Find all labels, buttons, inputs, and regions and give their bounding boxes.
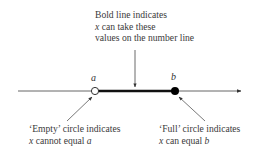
full-circle-b xyxy=(171,87,179,95)
full-annotation-line2: x can equal b xyxy=(159,135,240,147)
empty-annotation-mid: cannot equal xyxy=(33,135,87,146)
top-annotation-line2: x can take these xyxy=(95,21,194,33)
empty-annotation-line2: x cannot equal a xyxy=(29,135,120,147)
full-annotation-line1: ‘Full’ circle indicates xyxy=(159,123,240,135)
variable-b: b xyxy=(205,135,210,146)
top-annotation-line3: values on the number line xyxy=(95,32,194,44)
point-label-b: b xyxy=(171,71,176,82)
top-annotation: Bold line indicates x can take these val… xyxy=(95,9,194,44)
full-circle-annotation: ‘Full’ circle indicates x can equal b xyxy=(159,123,240,146)
empty-circle-arrow xyxy=(67,97,92,121)
empty-annotation-line1: ‘Empty’ circle indicates xyxy=(29,123,120,135)
empty-circle-a xyxy=(91,87,98,94)
empty-circle-annotation: ‘Empty’ circle indicates x cannot equal … xyxy=(29,123,120,146)
full-annotation-mid: can equal xyxy=(163,135,204,146)
top-annotation-line1: Bold line indicates xyxy=(95,9,194,21)
point-label-a: a xyxy=(91,72,96,83)
full-circle-arrow xyxy=(179,97,205,121)
variable-a: a xyxy=(87,135,92,146)
top-annotation-line2-text: can take these xyxy=(99,21,155,32)
